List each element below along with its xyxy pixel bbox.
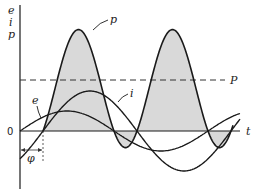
p-leader-line: [93, 20, 108, 30]
power-waveform-figure: e i p 0 t p i e P φ: [0, 0, 264, 194]
p-curve-label: p: [110, 13, 117, 26]
phi-label: φ: [27, 152, 35, 165]
i-curve-label: i: [130, 87, 134, 100]
arrowhead-icon: [21, 148, 25, 152]
e-curve-label: e: [32, 94, 39, 107]
y-label-p: p: [8, 28, 15, 41]
t-axis-label: t: [246, 125, 251, 138]
arrowhead-icon: [38, 148, 42, 152]
average-power-label: P: [229, 74, 238, 87]
origin-label: 0: [7, 126, 13, 137]
i-leader-line: [118, 94, 128, 102]
e-leader-line: [37, 106, 41, 118]
